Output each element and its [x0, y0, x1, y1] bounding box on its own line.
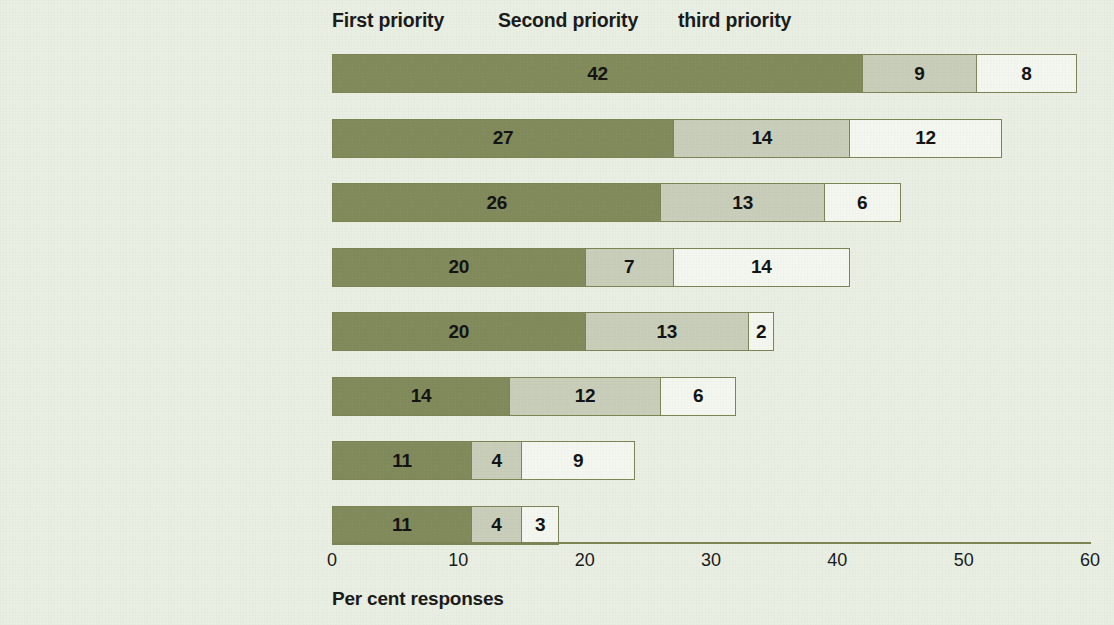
bar-segment-value: 20 — [333, 249, 585, 286]
plot-area: Eradicate extreme poverty and hunger4298… — [332, 48, 1090, 542]
chart-legend: First priority Second priority third pri… — [332, 6, 838, 34]
stacked-bar: 1143 — [332, 506, 559, 545]
x-tick-label: 60 — [1080, 550, 1100, 571]
bar-segment-value: 14 — [673, 249, 849, 286]
bar-segment-value: 9 — [862, 55, 975, 92]
legend-label-third-priority: third priority — [678, 9, 838, 32]
bar-segment-value: 14 — [673, 120, 849, 157]
x-axis-line — [332, 542, 1091, 544]
bar-segment-value: 4 — [471, 507, 521, 544]
bar-segment-value: 8 — [976, 55, 1077, 92]
bar-segment-value: 3 — [521, 507, 559, 544]
bar-segment-value: 4 — [471, 442, 521, 479]
stacked-bar: 4298 — [332, 54, 1077, 93]
x-tick-label: 0 — [327, 550, 337, 571]
x-tick-label: 30 — [701, 550, 721, 571]
x-tick-label: 50 — [954, 550, 974, 571]
legend-label-first-priority: First priority — [332, 9, 498, 32]
stacked-bar: 20714 — [332, 248, 850, 287]
stacked-bar: 20132 — [332, 312, 774, 351]
stacked-bar-chart: First priority Second priority third pri… — [0, 0, 1114, 625]
bar-segment-value: 14 — [333, 378, 509, 415]
bar-segment-value: 2 — [748, 313, 773, 350]
bar-segment-value: 26 — [333, 184, 660, 221]
bar-segment-value: 42 — [333, 55, 862, 92]
bar-segment-value: 20 — [333, 313, 585, 350]
bar-segment-value: 6 — [824, 184, 900, 221]
x-axis-title: Per cent responses — [332, 588, 504, 610]
bar-segment-value: 27 — [333, 120, 673, 157]
x-tick-label: 20 — [575, 550, 595, 571]
bar-segment-value: 12 — [509, 378, 660, 415]
bar-segment-value: 9 — [521, 442, 634, 479]
bar-segment-value: 12 — [849, 120, 1000, 157]
bar-segment-value: 11 — [333, 442, 471, 479]
stacked-bar: 14126 — [332, 377, 736, 416]
bar-segment-value: 7 — [585, 249, 673, 286]
stacked-bar: 271412 — [332, 119, 1002, 158]
bar-segment-value: 13 — [585, 313, 748, 350]
x-tick-label: 10 — [448, 550, 468, 571]
stacked-bar: 26136 — [332, 183, 901, 222]
legend-label-second-priority: Second priority — [498, 9, 678, 32]
bar-segment-value: 13 — [660, 184, 824, 221]
stacked-bar: 1149 — [332, 441, 635, 480]
bar-segment-value: 6 — [660, 378, 735, 415]
bar-segment-value: 11 — [333, 507, 471, 544]
x-tick-label: 40 — [827, 550, 847, 571]
